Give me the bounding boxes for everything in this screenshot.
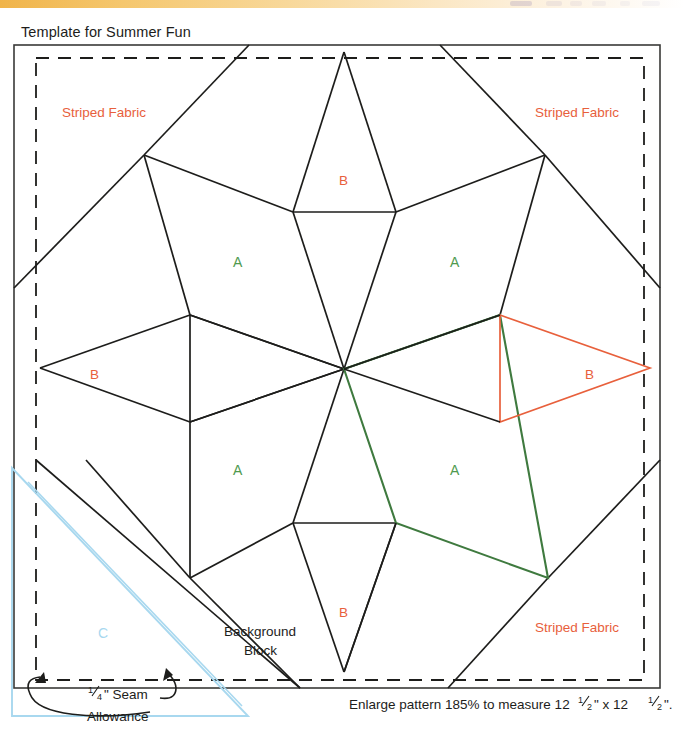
template-diagram: Striped Fabric Striped Fabric Striped Fa… <box>0 0 684 753</box>
label-piece-a-bottom-left: A <box>233 462 243 478</box>
star-pattern-lines <box>14 45 660 688</box>
enlarge-note-pre: Enlarge pattern 185% to measure 12 <box>349 697 570 712</box>
seam-arrow-right-head <box>163 668 173 681</box>
label-piece-a-top-left: A <box>233 254 243 270</box>
enlarge-note-n2: 1 <box>648 695 653 705</box>
label-piece-a-bottom-right: A <box>450 462 460 478</box>
label-striped-fabric-top-right: Striped Fabric <box>535 105 619 120</box>
right-b-diamond-black-edges <box>344 315 500 422</box>
highlighted-a-piece[interactable] <box>344 315 548 578</box>
label-striped-fabric-top-left: Striped Fabric <box>62 105 146 120</box>
enlarge-note-mid: " x 12 <box>594 697 628 712</box>
enlarge-note-d1: 2 <box>587 702 592 712</box>
enlarge-note-n1: 1 <box>578 695 583 705</box>
label-background-block-line1: Background <box>224 624 296 639</box>
label-piece-b-left: B <box>90 367 99 382</box>
seam-fraction-denominator: 4 <box>97 692 102 702</box>
label-striped-fabric-bottom-right: Striped Fabric <box>535 620 619 635</box>
enlarge-note: Enlarge pattern 185% to measure 12 1 2 "… <box>349 695 673 712</box>
seam-fraction-numerator: 1 <box>88 685 93 695</box>
label-piece-c: C <box>98 625 108 641</box>
label-piece-a-top-right: A <box>450 254 460 270</box>
seam-allowance-text-line2: Allowance <box>87 709 149 724</box>
enlarge-note-end: ". <box>664 697 673 712</box>
label-piece-b-bottom: B <box>339 605 348 620</box>
c-template-blue-overlay[interactable] <box>12 468 248 716</box>
seam-allowance-text: " Seam <box>104 687 148 702</box>
label-piece-b-top: B <box>339 173 348 188</box>
label-background-block-line2: Block <box>244 643 277 658</box>
label-piece-b-right: B <box>585 367 594 382</box>
highlighted-b-piece[interactable] <box>500 315 650 422</box>
bottom-right-a-black-edges <box>344 523 396 672</box>
enlarge-note-d2: 2 <box>657 702 662 712</box>
